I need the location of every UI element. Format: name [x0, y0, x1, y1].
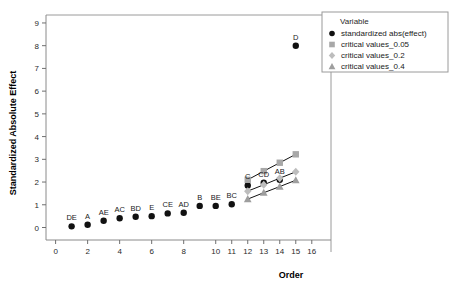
y-tick-label: 6 — [35, 87, 40, 96]
point-label: E — [149, 203, 154, 212]
data-point-square — [277, 160, 283, 166]
data-point-circle — [213, 203, 219, 209]
x-tick-label: 14 — [275, 247, 284, 256]
data-point-diamond — [292, 168, 299, 176]
data-point-diamond — [244, 187, 251, 195]
y-tick-label: 2 — [35, 178, 40, 187]
y-tick-label: 5 — [35, 110, 40, 119]
data-point-triangle — [260, 189, 268, 196]
x-tick-label: 2 — [85, 247, 90, 256]
point-label: BD — [130, 204, 141, 213]
point-label: B — [197, 193, 202, 202]
critical-value-line — [248, 180, 296, 199]
x-tick-label: 10 — [211, 247, 220, 256]
y-axis-title: Standardized Absolute Effect — [8, 71, 18, 196]
x-tick-label: 16 — [307, 247, 316, 256]
point-label: D — [293, 33, 299, 42]
point-label: CD — [258, 170, 269, 179]
critical-value-line — [248, 172, 296, 191]
legend-entry-label[interactable]: critical values_0.2 — [341, 51, 405, 60]
data-point-circle — [180, 210, 186, 216]
data-point-triangle — [244, 195, 252, 202]
x-tick-label: 12 — [243, 247, 252, 256]
legend-title: Variable — [340, 17, 369, 26]
x-tick-label: 4 — [117, 247, 122, 256]
data-point-circle — [293, 42, 299, 48]
legend: Variablestandardized abs(effect)critical… — [322, 12, 448, 72]
x-tick-label: 6 — [149, 247, 154, 256]
data-point-circle — [84, 222, 90, 228]
critical-value-line — [248, 154, 296, 179]
x-tick-label: 13 — [259, 247, 268, 256]
point-label: AC — [114, 205, 125, 214]
x-tick-label: 11 — [228, 247, 237, 256]
y-tick-label: 3 — [35, 155, 40, 164]
data-point-circle — [164, 210, 170, 216]
point-label: AB — [275, 167, 285, 176]
point-label: CE — [162, 200, 172, 209]
x-tick-label: 15 — [291, 247, 300, 256]
series-1 — [245, 151, 299, 183]
point-label: BE — [211, 193, 221, 202]
point-label: A — [85, 212, 90, 221]
data-point-circle — [197, 203, 203, 209]
y-tick-label: 4 — [35, 133, 40, 142]
point-label: C — [245, 172, 251, 181]
legend-entry-label[interactable]: critical values_0.4 — [341, 62, 405, 71]
y-tick-label: 8 — [35, 42, 40, 51]
data-point-circle — [229, 201, 235, 207]
data-point-triangle — [292, 176, 300, 183]
series-2 — [244, 168, 299, 195]
x-tick-label: 0 — [53, 247, 58, 256]
legend-entry-label[interactable]: critical values_0.05 — [341, 40, 410, 49]
data-point-circle — [329, 31, 335, 37]
x-tick-label: 8 — [181, 247, 186, 256]
chart-svg: 0123456789 0246810111213141516 Order Sta… — [0, 0, 452, 286]
data-point-circle — [132, 214, 138, 220]
data-point-square — [293, 151, 299, 157]
data-point-circle — [68, 223, 74, 229]
data-point-triangle — [276, 183, 284, 190]
legend-entry-label[interactable]: standardized abs(effect) — [341, 29, 427, 38]
x-axis-title: Order — [279, 270, 304, 280]
data-point-circle — [116, 215, 122, 221]
y-tick-label: 1 — [35, 201, 40, 210]
y-tick-label: 0 — [35, 224, 40, 233]
data-point-circle — [148, 213, 154, 219]
y-tick-label: 7 — [35, 64, 40, 73]
y-tick-label: 9 — [35, 19, 40, 28]
point-label: BC — [227, 191, 238, 200]
y-axis: 0123456789 — [35, 15, 46, 240]
data-point-square — [329, 42, 335, 48]
data-point-circle — [100, 217, 106, 223]
point-label: AE — [99, 208, 109, 217]
point-label: DE — [66, 213, 76, 222]
effects-plot: 0123456789 0246810111213141516 Order Sta… — [0, 0, 452, 286]
x-axis: 0246810111213141516 — [46, 240, 331, 256]
point-label: AD — [178, 200, 189, 209]
